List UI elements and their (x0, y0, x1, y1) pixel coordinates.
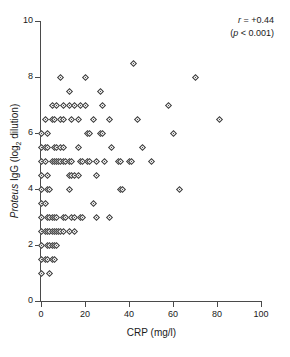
annotation-line-r: r = +0.44 (230, 14, 274, 27)
data-point-marker (44, 171, 51, 178)
data-point-marker (130, 59, 137, 66)
data-point-marker (106, 115, 113, 122)
data-point-marker (81, 73, 88, 80)
data-point-marker (44, 129, 51, 136)
x-tick-mark (85, 302, 86, 307)
data-point-marker (57, 73, 64, 80)
data-point-marker (66, 185, 73, 192)
data-point-marker (99, 129, 106, 136)
annotation-line-p: (p < 0.001) (230, 27, 274, 40)
x-tick-mark (261, 302, 262, 307)
data-point-marker (75, 115, 82, 122)
data-point-marker (46, 269, 53, 276)
x-tick-label: 60 (158, 310, 188, 319)
x-tick-label: 80 (202, 310, 232, 319)
data-point-marker (169, 129, 176, 136)
x-tick-label: 40 (114, 310, 144, 319)
x-tick-label: 20 (70, 310, 100, 319)
x-tick-label: 0 (26, 310, 56, 319)
y-axis-title: Proteus IgG (log2 dilution) (10, 61, 22, 261)
data-point-marker (108, 143, 115, 150)
data-point-marker (75, 143, 82, 150)
y-tick-label: 0 (13, 296, 33, 305)
data-point-marker (90, 115, 97, 122)
x-tick-mark (217, 302, 218, 307)
data-point-marker (90, 199, 97, 206)
data-point-marker (46, 185, 53, 192)
correlation-annotation: r = +0.44 (p < 0.001) (230, 14, 274, 40)
data-point-marker (70, 227, 77, 234)
y-axis-title-sub: 2 (15, 142, 22, 146)
data-point-marker (81, 101, 88, 108)
data-point-marker (97, 87, 104, 94)
data-point-marker (92, 171, 99, 178)
data-point-marker (66, 87, 73, 94)
x-tick-label: 100 (246, 310, 276, 319)
y-axis-title-post: dilution) (9, 104, 20, 142)
y-axis-title-genus: Proteus (9, 184, 20, 218)
data-point-marker (106, 213, 113, 220)
data-point-marker (92, 213, 99, 220)
y-tick-label: 10 (13, 16, 33, 25)
data-point-marker (37, 269, 44, 276)
data-point-marker (101, 157, 108, 164)
data-point-marker (216, 115, 223, 122)
y-axis-title-pre: IgG (log (9, 145, 20, 183)
x-axis-title: CRP (mg/l) (41, 328, 262, 338)
data-point-marker (191, 73, 198, 80)
data-point-marker (134, 115, 141, 122)
r-value: = +0.44 (241, 15, 274, 25)
data-point-marker (68, 157, 75, 164)
x-axis-line (41, 301, 262, 302)
scatter-plot-figure: 0246810 020406080100 CRP (mg/l) Proteus … (0, 0, 290, 357)
data-point-marker (176, 185, 183, 192)
plot-data-area (41, 21, 261, 301)
data-point-marker (139, 143, 146, 150)
data-point-marker (147, 157, 154, 164)
data-point-marker (165, 101, 172, 108)
x-tick-mark (173, 302, 174, 307)
x-tick-mark (41, 302, 42, 307)
p-value: < 0.001) (238, 28, 274, 38)
x-tick-mark (129, 302, 130, 307)
data-point-marker (99, 101, 106, 108)
data-point-marker (79, 213, 86, 220)
data-point-marker (92, 157, 99, 164)
